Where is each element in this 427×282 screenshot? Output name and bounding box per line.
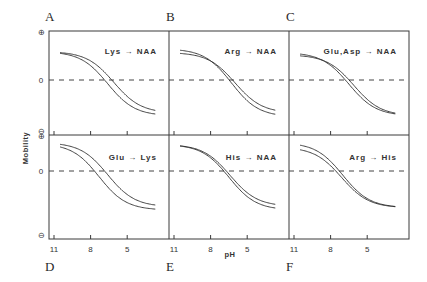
mobility-curve-mutant (60, 53, 155, 111)
zero-symbol: 0 (39, 76, 44, 85)
mobility-curve-wild (300, 54, 395, 114)
x-tick-label: 5 (125, 245, 130, 254)
panel-letter: C (286, 9, 295, 24)
panel-title: Glu → Lys (109, 153, 157, 162)
x-tick-label: 8 (328, 245, 333, 254)
x-tick-label: 11 (170, 245, 179, 254)
plus-symbol: ⊕ (38, 28, 45, 37)
panel-title: Arg → NAA (224, 47, 277, 56)
y-axis: ⊕0⊖⊕0⊖ (38, 28, 45, 240)
x-axis: 118511851185 (50, 245, 370, 254)
panel-b: BArg → NAA (166, 9, 289, 135)
panel-letter: F (286, 259, 293, 274)
panel-letter: A (45, 9, 55, 24)
panel-c: CGlu,Asp → NAA (286, 9, 409, 135)
mobility-curve-wild (60, 53, 155, 114)
x-tick-label: 11 (50, 245, 59, 254)
x-axis-label: pH (225, 250, 236, 259)
panel-letter: E (166, 259, 174, 274)
plus-symbol: ⊕ (38, 132, 45, 141)
mobility-curve-mutant (300, 56, 395, 113)
y-axis-label: Mobility (21, 132, 30, 165)
panel-d: DGlu → Lys (45, 144, 169, 274)
panel-title: His → NAA (226, 153, 277, 162)
panel-a: ALys → NAA (45, 9, 169, 135)
panel-letter: B (166, 9, 175, 24)
x-tick-label: 11 (290, 245, 299, 254)
panel-title: Arg → His (349, 153, 397, 162)
x-tick-label: 8 (208, 245, 213, 254)
zero-symbol: 0 (39, 167, 44, 176)
panel-f: FArg → His (286, 145, 409, 274)
panel-title: Glu,Asp → NAA (324, 47, 397, 56)
x-tick-label: 5 (245, 245, 250, 254)
panel-frames (49, 31, 409, 239)
x-tick-label: 8 (88, 245, 93, 254)
panels: ALys → NAABArg → NAACGlu,Asp → NAADGlu →… (45, 9, 409, 274)
mobility-curve-wild (180, 50, 275, 114)
panel-title: Lys → NAA (105, 47, 157, 56)
mobility-ph-figure: ALys → NAABArg → NAACGlu,Asp → NAADGlu →… (0, 0, 427, 282)
x-tick-label: 5 (365, 245, 370, 254)
minus-symbol: ⊖ (38, 231, 45, 240)
panel-letter: D (45, 259, 54, 274)
mobility-curve-mutant (180, 53, 275, 110)
